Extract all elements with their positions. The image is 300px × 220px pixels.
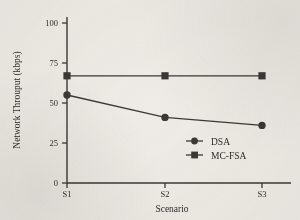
series-dsa-marker-s3 (258, 122, 265, 129)
x-tick-label-s3: S3 (258, 189, 267, 199)
series-dsa (63, 91, 265, 129)
series-mc-fsa-marker-s3 (258, 72, 265, 79)
y-tick-label-75: 75 (50, 58, 59, 68)
series-mc-fsa-marker-s2 (161, 72, 168, 79)
axis-lines (67, 17, 291, 183)
series-dsa-marker-s2 (161, 114, 168, 121)
y-axis-title: Network Throuput (kbps) (12, 51, 23, 148)
series-mc-fsa (63, 72, 265, 79)
x-tick-label-s1: S1 (63, 189, 72, 199)
x-axis-ticks (67, 183, 262, 188)
x-tick-label-s2: S2 (161, 189, 170, 199)
y-axis-tick-labels: 100 75 50 25 0 (45, 18, 58, 188)
y-tick-label-25: 25 (50, 138, 59, 148)
x-axis-title: Scenario (155, 204, 188, 214)
line-chart: 100 75 50 25 0 S1 S2 S3 Scenario Network… (0, 0, 300, 220)
series-mc-fsa-marker-s1 (63, 72, 70, 79)
chart-figure: 100 75 50 25 0 S1 S2 S3 Scenario Network… (0, 0, 300, 220)
chart-legend: DSA MC-FSA (186, 137, 247, 161)
y-tick-label-0: 0 (54, 178, 58, 188)
legend-label-dsa: DSA (211, 137, 230, 147)
legend-item-dsa: DSA (186, 137, 230, 147)
series-dsa-marker-s1 (63, 91, 70, 98)
legend-marker-circle-icon (191, 138, 198, 145)
y-axis-ticks (62, 23, 67, 183)
y-tick-label-50: 50 (50, 98, 59, 108)
legend-label-mc-fsa: MC-FSA (211, 151, 247, 161)
legend-marker-square-icon (191, 152, 198, 159)
legend-item-mc-fsa: MC-FSA (186, 151, 247, 161)
x-axis-tick-labels: S1 S2 S3 (63, 189, 267, 199)
y-tick-label-100: 100 (45, 18, 58, 28)
